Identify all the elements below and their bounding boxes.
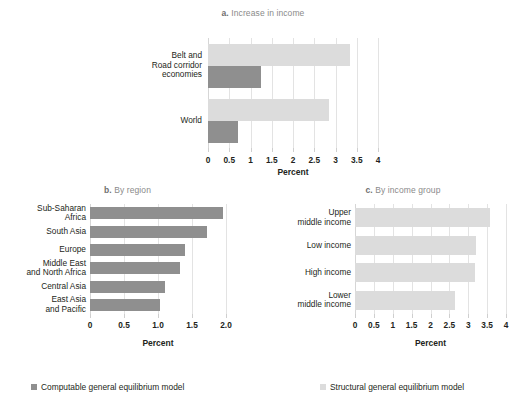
bar-b-1-0 — [90, 226, 207, 238]
legend-item-structural-general-equilibrium-model: Structural general equilibrium model — [320, 382, 464, 392]
tick-mark-a-8 — [378, 148, 379, 152]
x-tick-label-a-0: 0 — [206, 155, 211, 165]
panel-a-increase-in-income: a. Increase in income Belt andRoad corri… — [0, 0, 526, 175]
x-tick-label-a-3: 1.5 — [266, 155, 278, 165]
x-tick-label-b-1: 0.5 — [118, 320, 130, 330]
tick-mark-b-4 — [226, 314, 227, 318]
category-label-b-3: Middle Eastand North Africa — [0, 259, 86, 278]
x-tick-label-a-1: 0.5 — [223, 155, 235, 165]
x-tick-label-a-6: 3 — [333, 155, 338, 165]
category-label-b-0: Sub-SaharanAfrica — [0, 204, 86, 223]
tick-mark-c-7 — [487, 314, 488, 318]
bar-c-3-0 — [355, 291, 455, 310]
gridline-a-7 — [357, 38, 358, 148]
panel-b-title: b. By region — [0, 185, 255, 195]
category-label-line: and North Africa — [0, 268, 86, 277]
panel-c-title: c. By income group — [283, 185, 523, 195]
gridline-b-3 — [192, 204, 193, 314]
category-label-line: and Pacific — [0, 305, 86, 314]
tick-mark-a-2 — [251, 148, 252, 152]
tick-mark-a-6 — [336, 148, 337, 152]
x-tick-label-c-8: 4 — [504, 320, 509, 330]
panel-b-x-axis-title: Percent — [90, 338, 226, 348]
x-tick-label-a-4: 2 — [291, 155, 296, 165]
bar-c-0-0 — [355, 208, 490, 227]
bar-a-1-0 — [208, 99, 329, 121]
panel-b-by-region: b. By region Sub-SaharanAfricaSouth Asia… — [0, 180, 263, 370]
legend-label-0: Computable general equilibrium model — [41, 382, 184, 392]
category-label-line: economies — [118, 70, 202, 79]
category-label-line: Europe — [0, 245, 86, 254]
panel-b-title-text: By region — [112, 185, 151, 195]
bar-b-4-0 — [90, 281, 165, 293]
x-tick-label-b-0: 0 — [88, 320, 93, 330]
x-tick-label-b-2: 1.0 — [152, 320, 164, 330]
bar-a-0-1 — [208, 66, 261, 88]
x-tick-label-b-3: 1.5 — [186, 320, 198, 330]
tick-mark-c-8 — [506, 314, 507, 318]
bar-b-2-0 — [90, 244, 185, 256]
x-tick-label-a-8: 4 — [376, 155, 381, 165]
category-label-line: World — [118, 116, 202, 125]
panel-b-title-prefix: b. — [104, 185, 112, 195]
gridline-a-8 — [378, 38, 379, 148]
gridline-b-4 — [226, 204, 227, 314]
tick-mark-c-4 — [431, 314, 432, 318]
gridline-b-2 — [158, 204, 159, 314]
panel-a-x-axis-title: Percent — [208, 167, 378, 177]
x-tick-label-a-7: 3.5 — [351, 155, 363, 165]
category-label-a-1: World — [118, 116, 202, 125]
category-label-a-0: Belt andRoad corridoreconomies — [118, 51, 202, 79]
panel-a-title-prefix: a. — [222, 8, 229, 18]
bar-b-3-0 — [90, 262, 180, 274]
category-label-b-5: East Asiaand Pacific — [0, 295, 86, 314]
category-label-line: Central Asia — [0, 282, 86, 291]
x-tick-label-c-0: 0 — [353, 320, 358, 330]
category-label-c-1: Low income — [265, 241, 351, 250]
tick-mark-c-6 — [468, 314, 469, 318]
x-tick-label-c-5: 2.5 — [444, 320, 456, 330]
gridline-b-1 — [124, 204, 125, 314]
bar-a-1-1 — [208, 121, 238, 143]
gridline-b-0 — [90, 204, 91, 314]
x-tick-label-a-2: 1 — [248, 155, 253, 165]
tick-mark-a-5 — [314, 148, 315, 152]
bar-b-5-0 — [90, 299, 160, 311]
tick-mark-a-0 — [208, 148, 209, 152]
bar-a-0-0 — [208, 44, 350, 66]
panel-c-by-income-group: c. By income group Uppermiddle incomeLow… — [263, 180, 526, 370]
category-label-line: High income — [265, 268, 351, 277]
bar-c-1-0 — [355, 236, 476, 255]
tick-mark-b-2 — [158, 314, 159, 318]
panel-c-plot-area — [355, 204, 506, 314]
bar-c-2-0 — [355, 263, 475, 282]
tick-mark-c-0 — [355, 314, 356, 318]
x-tick-label-c-6: 3 — [466, 320, 471, 330]
panel-a-title-text: Increase in income — [229, 8, 305, 18]
x-tick-label-c-3: 1.5 — [406, 320, 418, 330]
panel-b-plot-area — [90, 204, 226, 314]
tick-mark-b-0 — [90, 314, 91, 318]
tick-mark-b-3 — [192, 314, 193, 318]
category-label-b-4: Central Asia — [0, 282, 86, 291]
panel-c-title-text: By income group — [373, 185, 441, 195]
category-label-line: Africa — [0, 213, 86, 222]
x-tick-label-a-5: 2.5 — [308, 155, 320, 165]
category-label-b-2: Europe — [0, 245, 86, 254]
panel-c-title-prefix: c. — [365, 185, 372, 195]
bar-b-0-0 — [90, 207, 223, 219]
panel-a-title: a. Increase in income — [0, 8, 526, 18]
gridline-c-8 — [506, 204, 507, 314]
x-tick-label-b-4: 2.0 — [220, 320, 232, 330]
panel-c-x-axis-title: Percent — [355, 338, 506, 348]
category-label-line: South Asia — [0, 227, 86, 236]
category-label-line: Low income — [265, 241, 351, 250]
tick-mark-a-4 — [293, 148, 294, 152]
tick-mark-c-2 — [393, 314, 394, 318]
x-tick-label-c-2: 1 — [390, 320, 395, 330]
category-label-b-1: South Asia — [0, 227, 86, 236]
category-label-c-0: Uppermiddle income — [265, 208, 351, 227]
x-tick-label-c-4: 2 — [428, 320, 433, 330]
panel-a-plot-area — [208, 38, 378, 148]
x-tick-label-c-7: 3.5 — [481, 320, 493, 330]
